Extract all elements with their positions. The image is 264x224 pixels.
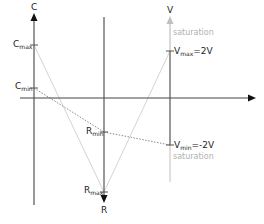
c-max-label: Cmax xyxy=(13,40,32,50)
v-min-label: Vmin=-2V xyxy=(174,141,214,151)
c-max-sub: max xyxy=(19,43,32,50)
c-min-label: Cmin xyxy=(15,82,33,92)
v-max-value: =2V xyxy=(193,46,212,56)
v-max-label: Vmax=2V xyxy=(174,47,213,57)
r-axis-label: R xyxy=(101,206,107,215)
saturation-bottom-label: saturation xyxy=(173,153,214,161)
cr-v-mapping-diagram xyxy=(0,0,264,224)
rmax-to-vmax-line xyxy=(104,51,170,192)
cmax-to-rmax-line xyxy=(34,45,104,192)
cmin-to-rmin-line xyxy=(34,88,104,132)
c-axis-arrow-icon xyxy=(31,13,38,21)
v-min-value: =-2V xyxy=(192,140,215,150)
saturation-top-label: saturation xyxy=(173,29,214,37)
v-min-sub: min xyxy=(180,144,191,151)
v-axis-arrow-icon xyxy=(167,16,174,24)
horizontal-axis-arrow-icon xyxy=(248,95,256,102)
r-min-label: Rmin xyxy=(86,127,104,137)
r-max-label: Rmax xyxy=(84,186,103,196)
v-axis-label: V xyxy=(167,6,173,15)
r-axis-arrow-icon xyxy=(101,195,108,203)
rmin-to-vmin-line xyxy=(104,132,170,145)
r-min-sub: min xyxy=(92,130,103,137)
v-max-sub: max xyxy=(180,50,193,57)
c-axis-label: C xyxy=(31,3,37,12)
c-min-sub: min xyxy=(21,85,32,92)
r-max-sub: max xyxy=(90,189,103,196)
